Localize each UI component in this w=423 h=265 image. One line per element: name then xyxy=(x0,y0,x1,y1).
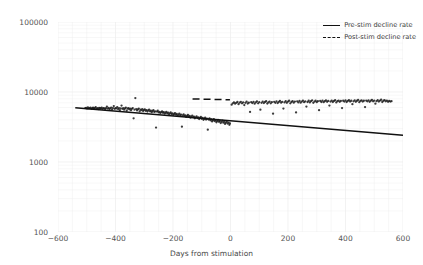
post-stim-trend-line xyxy=(193,99,230,100)
x-axis-label: Days from stimulation xyxy=(0,249,423,258)
plot-canvas xyxy=(58,22,403,232)
legend-label-pre-stim: Pre-stim decline rate xyxy=(344,21,413,29)
x-axis-ticks: −600−400−2000200400600 xyxy=(58,234,403,246)
dashed-line-swatch-icon xyxy=(323,37,340,38)
y-tick-label: 1000 xyxy=(29,158,48,167)
x-tick-label: 400 xyxy=(338,234,352,243)
x-tick-label: 600 xyxy=(396,234,410,243)
x-tick-label: −200 xyxy=(163,234,184,243)
legend-item-pre-stim: Pre-stim decline rate xyxy=(323,20,416,30)
y-axis-label: BOPD xyxy=(0,106,1,127)
production-decline-chart: 100100010000100000 BOPD −600−400−2000200… xyxy=(0,0,423,265)
scatter-series xyxy=(231,99,393,115)
pre-stim-trend-line xyxy=(75,108,403,136)
legend-item-post-stim: Post-stim decline rate xyxy=(323,32,416,42)
solid-line-swatch-icon xyxy=(323,25,340,26)
x-tick-label: −600 xyxy=(48,234,69,243)
gridlines xyxy=(58,22,403,232)
plot-area xyxy=(58,22,403,232)
chart-legend: Pre-stim decline rate Post-stim decline … xyxy=(323,20,416,42)
x-tick-label: 0 xyxy=(228,234,233,243)
y-tick-label: 100000 xyxy=(19,18,48,27)
legend-label-post-stim: Post-stim decline rate xyxy=(344,33,416,41)
x-tick-label: 200 xyxy=(281,234,295,243)
x-tick-label: −400 xyxy=(105,234,126,243)
y-tick-label: 10000 xyxy=(24,88,48,97)
y-tick-label: 100 xyxy=(34,228,48,237)
y-axis-ticks: 100100010000100000 xyxy=(0,22,53,232)
